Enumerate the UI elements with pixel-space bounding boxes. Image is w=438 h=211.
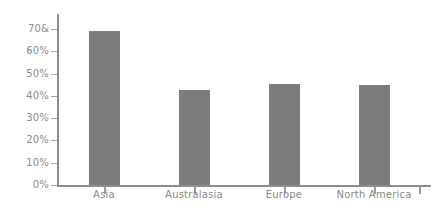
y-axis-tick-label-text: 20%: [5, 135, 49, 145]
y-axis-tick-label: 50%: [0, 69, 49, 79]
y-axis-tick-label-text: 10%: [5, 158, 49, 168]
bar-chart: 0%10%20%30%40%50%60%70& AsiaAustralasiaE…: [0, 0, 438, 211]
y-axis-tick-label-text: 60%: [5, 46, 49, 56]
y-axis-tick: [51, 140, 57, 141]
y-axis-tick-label-text: 0%: [5, 180, 49, 190]
x-axis-category-label: North America: [314, 189, 434, 201]
y-axis-tick-label: 10%: [0, 158, 49, 168]
y-axis-tick-label-text: 30%: [5, 113, 49, 123]
bar: [89, 31, 120, 185]
bar: [179, 90, 210, 185]
y-axis-tick: [51, 96, 57, 97]
y-axis-tick: [51, 74, 57, 75]
bar: [359, 85, 390, 185]
y-axis-tick: [51, 29, 57, 30]
plot-area: [59, 14, 431, 185]
y-axis-tick-label-text: 40%: [5, 91, 49, 101]
y-axis-tick-label: 60%: [0, 46, 49, 56]
y-axis-tick-label: 30%: [0, 113, 49, 123]
y-axis-tick-label: 20%: [0, 135, 49, 145]
bar: [269, 84, 300, 185]
y-axis-tick: [51, 163, 57, 164]
y-axis-tick: [51, 185, 57, 186]
y-axis-tick-label-text: 70&: [5, 24, 49, 34]
y-axis-tick: [51, 51, 57, 52]
y-axis-tick-label: 40%: [0, 91, 49, 101]
y-axis-tick-label-text: 50%: [5, 69, 49, 79]
y-axis-tick-label: 70&: [0, 24, 49, 34]
y-axis-tick-label: 0%: [0, 180, 49, 190]
y-axis-tick: [51, 118, 57, 119]
